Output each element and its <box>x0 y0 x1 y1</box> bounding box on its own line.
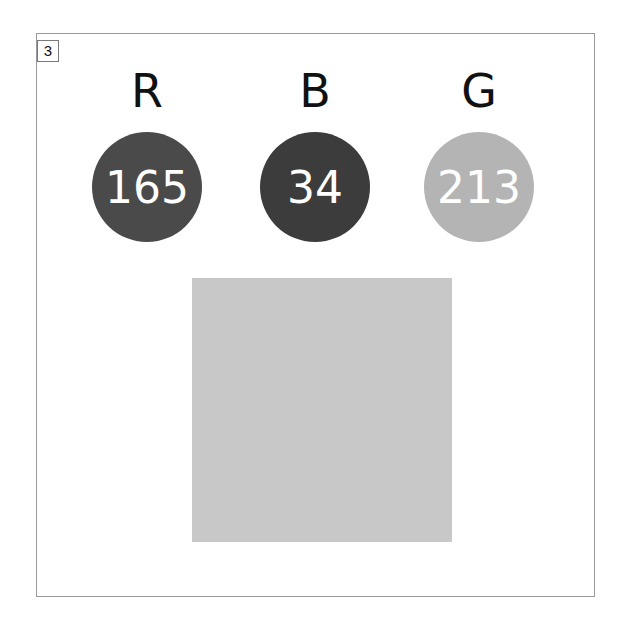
color-swatch <box>192 278 452 542</box>
channel-red: R 165 <box>91 66 203 242</box>
channel-value-circle: 34 <box>260 132 370 242</box>
channel-letter: B <box>259 66 371 120</box>
channel-value-circle: 213 <box>424 132 534 242</box>
panel-index-badge: 3 <box>37 40 59 62</box>
channel-value: 165 <box>105 162 189 213</box>
channel-green: G 213 <box>423 66 535 242</box>
channel-letter: G <box>423 66 535 120</box>
channel-letter: R <box>91 66 203 120</box>
channel-value-circle: 165 <box>92 132 202 242</box>
channel-blue: B 34 <box>259 66 371 242</box>
channel-value: 213 <box>437 162 521 213</box>
channel-value: 34 <box>287 162 343 213</box>
